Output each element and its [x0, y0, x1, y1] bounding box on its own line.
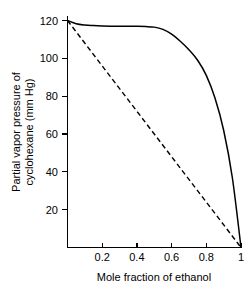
x-tick-label-1: 1	[238, 251, 244, 263]
vapor-pressure-chart-figure: 120 100 80 60 40 20 0.2 0.4 0.6 0.8 1 Mo…	[0, 0, 252, 290]
x-tick-label-0.8: 0.8	[199, 251, 214, 263]
y-axis-title-line1: Partial vapor pressure of	[10, 71, 22, 192]
y-tick-label-60: 60	[46, 128, 58, 140]
y-tick-marks	[62, 21, 68, 210]
y-tick-label-100: 100	[40, 52, 58, 64]
y-tick-labels: 120 100 80 60 40 20	[40, 15, 58, 216]
ideal-raoults-law-line	[68, 21, 242, 248]
x-tick-labels: 0.2 0.4 0.6 0.8 1	[95, 251, 245, 263]
y-tick-label-80: 80	[46, 90, 58, 102]
y-tick-label-120: 120	[40, 15, 58, 27]
x-tick-label-0.6: 0.6	[164, 251, 179, 263]
y-tick-label-20: 20	[46, 204, 58, 216]
y-axis-title: Partial vapor pressure of cyclohexane (m…	[10, 71, 35, 192]
y-axis-title-line2: cyclohexane (mm Hg)	[23, 79, 35, 186]
x-tick-marks	[102, 243, 241, 248]
chart-canvas: 120 100 80 60 40 20 0.2 0.4 0.6 0.8 1 Mo…	[0, 0, 252, 290]
x-tick-label-0.4: 0.4	[129, 251, 144, 263]
x-tick-label-0.2: 0.2	[95, 251, 110, 263]
y-tick-label-40: 40	[46, 166, 58, 178]
x-axis-title: Mole fraction of ethanol	[97, 271, 211, 283]
